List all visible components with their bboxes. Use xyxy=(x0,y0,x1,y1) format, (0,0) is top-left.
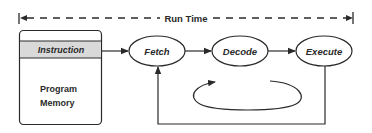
memory-label: Memory xyxy=(40,98,75,108)
fetch-stage: Fetch xyxy=(129,36,185,66)
fetch-decode-execute-diagram: Run Time Instruction Program Memory Fetc… xyxy=(0,0,372,133)
fetch-label: Fetch xyxy=(144,46,170,57)
execute-stage: Execute xyxy=(296,36,352,66)
program-memory-box: Instruction Program Memory xyxy=(20,31,102,125)
execute-label: Execute xyxy=(306,46,343,57)
arrow-execute-back-to-fetch xyxy=(158,66,325,124)
run-time-timeline: Run Time xyxy=(19,12,353,24)
timeline-left-arrowhead-icon xyxy=(20,15,27,21)
cycle-loop-arrow-icon xyxy=(193,81,301,110)
timeline-right-arrowhead-icon xyxy=(346,15,353,21)
program-label: Program xyxy=(40,84,77,94)
run-time-label: Run Time xyxy=(164,13,207,24)
decode-stage: Decode xyxy=(212,36,268,66)
instruction-label: Instruction xyxy=(38,45,85,55)
decode-label: Decode xyxy=(223,46,258,57)
